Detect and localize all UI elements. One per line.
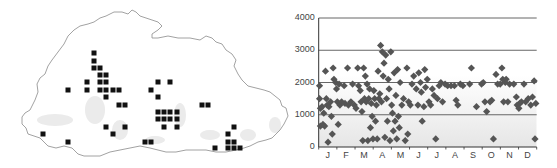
occurrence-square xyxy=(232,125,237,130)
occurrence-square xyxy=(168,80,173,85)
x-tick-label: N xyxy=(503,150,515,160)
x-tick-label: J xyxy=(322,150,334,160)
occurrence-square xyxy=(175,125,180,130)
occurrence-square xyxy=(66,88,71,93)
occurrence-square xyxy=(168,110,173,115)
x-tick-label: J xyxy=(413,150,425,160)
x-tick-label: J xyxy=(431,150,443,160)
x-tick-label: A xyxy=(376,150,388,160)
occurrence-square xyxy=(149,140,154,145)
occurrence-square xyxy=(123,125,128,130)
occurrence-square xyxy=(156,117,161,122)
occurrence-square xyxy=(156,95,161,100)
x-tick-label: M xyxy=(394,150,406,160)
occurrence-square xyxy=(111,88,116,93)
occurrence-square xyxy=(104,125,109,130)
occurrence-square xyxy=(168,117,173,122)
occurrence-square xyxy=(232,146,237,151)
occurrence-square xyxy=(162,125,167,130)
occurrence-square xyxy=(238,146,243,151)
y-tick-label: 0 xyxy=(285,141,315,151)
x-tick-label: F xyxy=(340,150,352,160)
occurrence-square xyxy=(200,103,205,108)
occurrence-square xyxy=(104,73,109,78)
occurrence-square xyxy=(104,88,109,93)
occurrence-square xyxy=(92,59,97,64)
occurrence-square xyxy=(226,140,231,145)
occurrence-square xyxy=(232,140,237,145)
elevation-by-month-chart: 01000200030004000 JFMAMJJASOND xyxy=(280,0,557,168)
occurrence-square xyxy=(156,110,161,115)
occurrence-square xyxy=(92,66,97,71)
data-point xyxy=(498,64,505,71)
occurrence-square xyxy=(175,110,180,115)
data-point xyxy=(344,64,351,71)
occurrence-square xyxy=(117,88,122,93)
x-tick-label: O xyxy=(485,150,497,160)
occurrence-square xyxy=(162,110,167,115)
occurrence-square xyxy=(162,117,167,122)
occurrence-square xyxy=(117,103,122,108)
x-tick-label: S xyxy=(467,150,479,160)
y-tick-label: 4000 xyxy=(285,12,315,22)
occurrence-square xyxy=(92,51,97,56)
occurrence-square xyxy=(85,80,90,85)
occurrence-square xyxy=(213,146,218,151)
occurrence-square xyxy=(206,103,211,108)
occurrence-square xyxy=(111,132,116,137)
y-tick-label: 1000 xyxy=(285,109,315,119)
occurrence-square xyxy=(149,88,154,93)
data-point xyxy=(322,68,329,75)
occurrence-square xyxy=(85,88,90,93)
occurrence-square xyxy=(226,146,231,151)
data-point xyxy=(330,64,337,71)
occurrence-square xyxy=(143,140,148,145)
data-point xyxy=(421,66,428,73)
occurrence-square xyxy=(104,80,109,85)
data-point xyxy=(377,42,384,49)
occurrence-square xyxy=(98,88,103,93)
occurrence-square xyxy=(66,140,71,145)
x-tick-label: D xyxy=(522,150,534,160)
data-point xyxy=(380,60,387,67)
scatter-plot xyxy=(280,0,557,168)
y-tick-label: 3000 xyxy=(285,44,315,54)
data-point xyxy=(360,64,367,71)
occurrence-square xyxy=(41,132,46,137)
occurrence-square xyxy=(156,80,161,85)
data-point xyxy=(468,64,475,71)
occurrence-square xyxy=(104,95,109,100)
data-point xyxy=(403,64,410,71)
x-tick-label: M xyxy=(358,150,370,160)
data-point xyxy=(374,68,381,75)
occurrence-square xyxy=(98,80,103,85)
occurrence-square xyxy=(226,132,231,137)
x-tick-label: A xyxy=(449,150,461,160)
occurrence-square xyxy=(123,103,128,108)
distribution-map xyxy=(0,0,290,168)
occurrence-square xyxy=(175,117,180,122)
occurrence-square xyxy=(98,73,103,78)
y-tick-label: 2000 xyxy=(285,77,315,87)
occurrence-square xyxy=(98,66,103,71)
